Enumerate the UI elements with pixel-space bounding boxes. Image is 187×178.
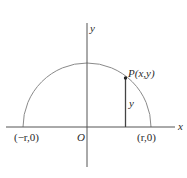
- left-intercept-label: (−r,0): [14, 131, 39, 144]
- segment-y-label: y: [128, 97, 134, 109]
- point-p-label: P(x,y): [127, 67, 155, 80]
- semicircle-diagram: y x O (−r,0) (r,0) P(x,y) y: [0, 0, 187, 178]
- origin-label: O: [77, 131, 85, 143]
- point-p: [124, 76, 127, 79]
- right-intercept-label: (r,0): [137, 131, 156, 144]
- x-axis-label: x: [177, 120, 183, 132]
- y-axis-label: y: [89, 22, 95, 34]
